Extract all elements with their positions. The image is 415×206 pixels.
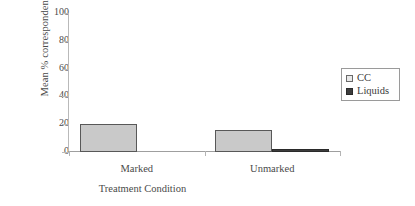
legend-item-cc: CC bbox=[346, 72, 399, 85]
bar-unmarked-cc bbox=[215, 130, 272, 152]
y-axis-tick: 40 bbox=[20, 96, 69, 97]
liquids-swatch-icon bbox=[346, 88, 353, 95]
y-axis-tick-label: 80 bbox=[35, 35, 69, 45]
cc-swatch-icon bbox=[346, 75, 353, 82]
y-axis-tick: 100 bbox=[20, 13, 69, 14]
plot-area bbox=[69, 13, 340, 152]
y-axis-tick: 60 bbox=[20, 69, 69, 70]
bar-marked-cc bbox=[80, 124, 137, 152]
x-axis-tick-mark bbox=[69, 151, 70, 156]
y-axis-tick: 0 bbox=[20, 152, 69, 153]
chart-figure: Mean % correspondence 020406080100 Marke… bbox=[0, 0, 415, 206]
y-axis-tick-label: 100 bbox=[35, 7, 69, 17]
x-axis-category-unmarked: Unmarked bbox=[212, 163, 332, 174]
y-axis-tick-label: 0 bbox=[35, 146, 69, 156]
chart-legend: CCLiquids bbox=[341, 68, 400, 101]
y-axis-tick-label: 40 bbox=[35, 90, 69, 100]
legend-item-liquids: Liquids bbox=[346, 85, 399, 98]
x-axis-label-container: Treatment Condition bbox=[0, 183, 415, 194]
y-axis-tick-label: 60 bbox=[35, 63, 69, 73]
legend-label: CC bbox=[357, 73, 371, 84]
x-axis-category-marked: Marked bbox=[77, 163, 197, 174]
bar-unmarked-liquids bbox=[272, 149, 329, 152]
legend-label: Liquids bbox=[357, 86, 389, 97]
x-axis-tick-mark bbox=[205, 151, 206, 156]
y-axis-tick: 80 bbox=[20, 41, 69, 42]
x-axis-label: Treatment Condition bbox=[99, 183, 186, 194]
y-axis-tick-label: 20 bbox=[35, 118, 69, 128]
y-axis-tick: 20 bbox=[20, 124, 69, 125]
y-axis-tick-mark bbox=[62, 152, 69, 153]
x-axis-tick-mark bbox=[340, 151, 341, 156]
